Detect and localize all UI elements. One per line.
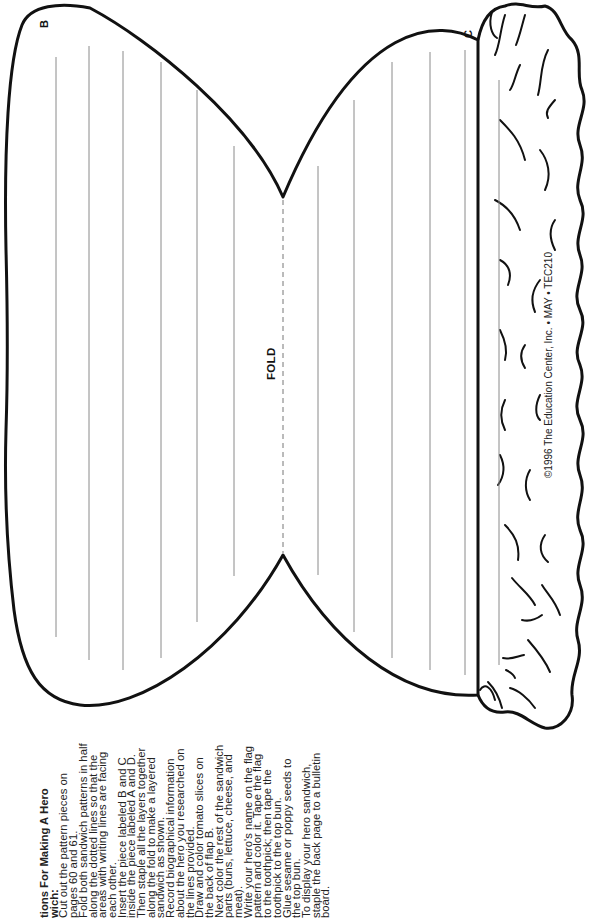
- flap-label-c: C: [462, 30, 474, 38]
- flap-label-b: B: [38, 20, 50, 28]
- writing-lines-right: [318, 50, 499, 675]
- instructions-title: tions For Making A Hero: [40, 713, 50, 918]
- copyright-notice: ©1996 The Education Center, Inc. • MAY •…: [543, 252, 554, 478]
- fold-label: FOLD: [265, 348, 277, 381]
- worksheet-page: B C FOLD ©1996 The Education Center, Inc…: [0, 0, 589, 920]
- instructions-block: tions For Making A Hero wich: Cut out th…: [40, 713, 331, 918]
- sandwich-outline: [5, 5, 478, 705]
- instruction-line: board.: [321, 713, 331, 918]
- writing-lines-left: [56, 46, 234, 670]
